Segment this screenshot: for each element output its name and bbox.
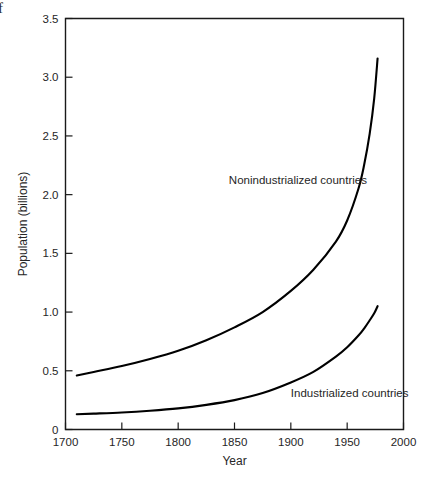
series-annotation-label: Industrialized countries — [291, 387, 409, 399]
y-tick-label: 1.0 — [43, 306, 59, 318]
x-tick-label: 1900 — [278, 436, 304, 448]
series-line-nonindustrialized-countries — [77, 58, 378, 375]
series-annotation-label: Nonindustrialized countries — [229, 174, 367, 186]
y-tick-label: 2.5 — [43, 130, 59, 142]
x-tick-label: 1800 — [165, 436, 191, 448]
y-axis-ticks: 00.51.01.52.02.53.03.5 — [43, 13, 73, 436]
y-tick-label: 2.0 — [43, 189, 59, 201]
x-tick-label: 2000 — [391, 436, 417, 448]
x-axis-title: Year — [222, 454, 246, 468]
figure-root: f 00.51.01.52.02.53.03.5 170017501800185… — [0, 0, 436, 478]
y-axis-title: Population (billions) — [16, 172, 30, 277]
y-tick-label: 3.5 — [43, 13, 59, 25]
y-tick-label: 3.0 — [43, 71, 59, 83]
x-tick-label: 1850 — [222, 436, 248, 448]
x-tick-label: 1950 — [334, 436, 360, 448]
y-tick-label: 0.5 — [43, 365, 59, 377]
series-annotations: Nonindustrialized countriesIndustrialize… — [229, 174, 409, 399]
y-tick-label: 0 — [52, 424, 58, 436]
x-axis-ticks: 1700175018001850190019502000 — [53, 423, 417, 448]
x-tick-label: 1700 — [53, 436, 79, 448]
x-tick-label: 1750 — [109, 436, 135, 448]
y-tick-label: 1.5 — [43, 247, 59, 259]
population-growth-line-chart: 00.51.01.52.02.53.03.5 17001750180018501… — [0, 0, 436, 478]
data-series-group — [77, 58, 378, 414]
